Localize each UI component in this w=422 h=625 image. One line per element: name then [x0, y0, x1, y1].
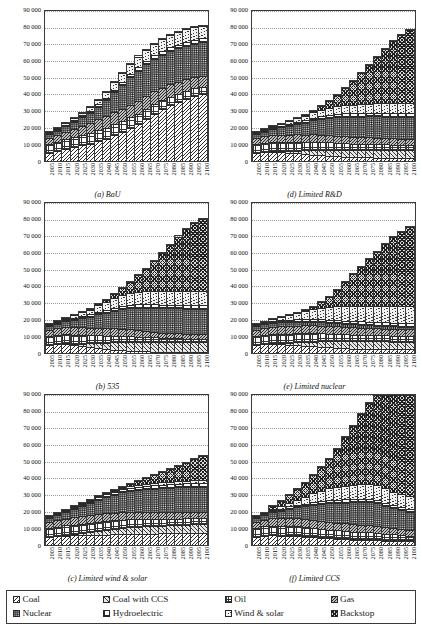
plot-area-b: 90 00080 00070 00060 00050 00040 00030 0…: [6, 202, 209, 354]
x-axis-tick: 2010: [261, 162, 268, 188]
bar-segment-coal-with-ccs: [127, 527, 134, 534]
x-axis-tick: 2005: [45, 546, 52, 572]
y-axis-tick: 20 000: [230, 125, 248, 132]
bar-segment-wind-solar: [342, 486, 349, 500]
bar-segment-wind-solar: [334, 106, 341, 114]
bar-segment-gas: [326, 522, 333, 530]
bar-segment-nuclear: [406, 117, 413, 139]
chart-caption-c: (c) Limited wind & solar: [6, 573, 209, 585]
bar-segment-coal-with-ccs: [183, 342, 190, 352]
bar-segment-wind-solar: [119, 295, 126, 306]
y-axis-tick: 30 000: [23, 492, 41, 499]
bar-segment-oil: [95, 130, 102, 141]
x-axis-tick: 2075: [160, 162, 167, 188]
bar-segment-wind-solar: [199, 291, 206, 306]
bar-segment-coal: [87, 144, 94, 161]
x-axis-tick: 2050: [119, 546, 126, 572]
bar: [127, 64, 134, 161]
bar-segment-gas: [358, 137, 365, 144]
bar-segment-coal: [310, 346, 317, 353]
bar-segment-nuclear: [127, 491, 134, 512]
x-axis-tick: 2045: [111, 546, 118, 572]
x-axis-tick: 2025: [285, 546, 292, 572]
bar-segment-gas: [87, 515, 94, 523]
bar: [135, 56, 142, 161]
bar-segment-gas: [71, 517, 78, 524]
y-axis-tick: 0: [245, 543, 248, 550]
bar-segment-nuclear: [310, 120, 317, 134]
bar-segment-coal-with-ccs: [382, 341, 389, 349]
bar-segment-coal: [143, 351, 150, 353]
bar-segment-wind-solar: [318, 308, 325, 319]
bar-segment-oil: [334, 334, 341, 341]
y-axis-tick: 40 000: [230, 475, 248, 482]
x-axis-tick: 2010: [54, 354, 61, 380]
bar-segment-wind-solar: [167, 291, 174, 305]
bar-segment-coal: [261, 152, 268, 161]
plot-box-f: [251, 394, 416, 546]
y-axis-tick: 90 000: [230, 391, 248, 398]
bar: [159, 253, 166, 353]
bar: [310, 307, 317, 353]
y-axis-tick: 10 000: [23, 526, 41, 533]
x-axis-tick: 2030: [293, 354, 300, 380]
bar-segment-coal-with-ccs: [382, 150, 389, 157]
bar-segment-wind-solar: [382, 103, 389, 113]
x-axis-tick: 2020: [70, 546, 77, 572]
bar: [302, 483, 309, 546]
bar-segment-nuclear: [342, 117, 349, 136]
chart-panel-d: 90 00080 00070 00060 00050 00040 00030 0…: [213, 10, 416, 202]
x-axis-tick: 2040: [102, 546, 109, 572]
bar: [54, 128, 61, 161]
bar-segment-gas: [334, 523, 341, 531]
chart-panel-a: 90 00080 00070 00060 00050 00040 00030 0…: [6, 10, 209, 202]
x-axis-tick: 2020: [277, 162, 284, 188]
y-axis-tick: 70 000: [23, 233, 41, 240]
bar-segment-gas: [71, 129, 78, 137]
bar-segment-coal-with-ccs: [135, 342, 142, 351]
bar-segment-oil: [119, 121, 126, 132]
bar-segment-oil: [54, 142, 61, 152]
bar-segment-coal: [310, 537, 317, 545]
legend-item-label: Backstop: [340, 608, 374, 619]
bar-segment-oil: [175, 94, 182, 102]
bar-segment-gas: [374, 328, 381, 335]
bar-segment-wind-solar: [366, 484, 373, 499]
bar-segment-oil: [261, 335, 268, 344]
x-axis-tick: 2095: [192, 546, 199, 572]
x-axis-tick: 2035: [94, 162, 101, 188]
bar-segment-nuclear: [159, 55, 166, 88]
bar-segment-backstop: [366, 259, 373, 305]
y-axis-tick: 20 000: [230, 509, 248, 516]
bar-segment-nuclear: [199, 309, 206, 334]
bar: [398, 395, 405, 545]
x-axis-tick: 2030: [86, 546, 93, 572]
bar-segment-oil: [261, 143, 268, 152]
bar-segment-coal-with-ccs: [350, 341, 357, 348]
bar-segment-oil: [310, 528, 317, 536]
bar-segment-gas: [135, 512, 142, 519]
bar-segment-gas: [87, 328, 94, 336]
bar-segment-gas: [103, 116, 110, 127]
x-axis-tick: 2085: [176, 162, 183, 188]
bar-segment-gas: [95, 514, 102, 522]
bar-segment-wind-solar: [111, 298, 118, 307]
x-axis-tick: 2065: [350, 546, 357, 572]
bar-segment-wind-solar: [326, 108, 333, 115]
x-axis-tick: 2030: [86, 354, 93, 380]
bar-segment-oil: [111, 124, 118, 135]
bar-segment-nuclear: [71, 122, 78, 129]
bar-segment-coal: [350, 540, 357, 545]
y-axis-tick: 10 000: [230, 142, 248, 149]
x-axis-tick: 2090: [184, 162, 191, 188]
x-axis-tick: 2050: [119, 354, 126, 380]
bar: [175, 32, 182, 161]
bar-segment-coal: [253, 153, 260, 161]
bar-segment-coal: [119, 534, 126, 545]
bar-segment-nuclear: [382, 117, 389, 138]
bar: [278, 124, 285, 161]
bar-segment-gas: [191, 77, 198, 88]
bar: [167, 469, 174, 545]
bar-segment-gas: [119, 329, 126, 336]
bar-segment-nuclear: [143, 308, 150, 331]
